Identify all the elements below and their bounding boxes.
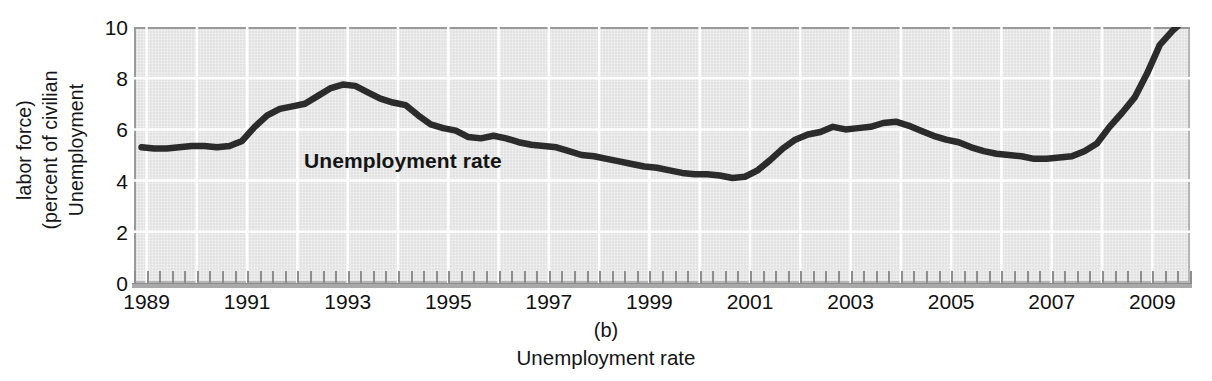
x-tick-1991: 1991	[224, 289, 271, 315]
x-minor-tick	[297, 271, 299, 284]
x-minor-tick	[901, 271, 903, 284]
x-minor-tick	[1089, 271, 1091, 284]
x-minor-tick	[813, 271, 815, 284]
x-minor-tick	[976, 271, 978, 284]
x-minor-tick	[926, 271, 928, 284]
y-axis-title: Unemployment (percent of civilian labor …	[0, 0, 100, 300]
x-minor-tick	[209, 271, 211, 284]
x-minor-tick	[272, 271, 274, 284]
plot-area	[134, 27, 1190, 283]
y-axis-title-line-1: Unemployment	[64, 84, 89, 216]
x-minor-tick	[763, 271, 765, 284]
x-tick-1995: 1995	[425, 289, 472, 315]
figure-caption: (b) Unemployment rate	[0, 316, 1212, 372]
x-minor-tick	[398, 271, 400, 284]
x-minor-tick	[637, 271, 639, 284]
x-minor-tick	[1077, 271, 1079, 284]
x-tick-2005: 2005	[928, 289, 975, 315]
horizontal-gridlines	[134, 78, 1190, 232]
x-tick-2001: 2001	[727, 289, 774, 315]
x-minor-tick	[599, 271, 601, 284]
x-minor-tick	[775, 271, 777, 284]
x-minor-tick	[851, 271, 853, 284]
x-tick-1993: 1993	[324, 289, 371, 315]
x-minor-tick	[1052, 271, 1054, 284]
x-minor-tick	[536, 271, 538, 284]
x-minor-tick	[172, 271, 174, 284]
x-minor-tick	[612, 271, 614, 284]
x-minor-tick	[486, 271, 488, 284]
x-minor-tick	[373, 271, 375, 284]
x-minor-tick	[712, 271, 714, 284]
x-minor-tick	[511, 271, 513, 284]
x-minor-tick	[863, 271, 865, 284]
x-minor-tick	[939, 271, 941, 284]
x-minor-tick	[285, 271, 287, 284]
x-minor-tick	[549, 271, 551, 284]
x-minor-tick	[1001, 271, 1003, 284]
x-minor-tick	[687, 271, 689, 284]
x-minor-tick	[385, 271, 387, 284]
x-tick-1997: 1997	[525, 289, 572, 315]
x-minor-tick	[700, 271, 702, 284]
x-minor-tick	[323, 271, 325, 284]
x-minor-tick	[1127, 271, 1129, 284]
x-minor-tick	[1177, 271, 1179, 284]
x-minor-tick	[1190, 271, 1192, 284]
series-annotation-label: Unemployment rate	[304, 149, 502, 173]
x-minor-tick	[1102, 271, 1104, 284]
x-minor-tick	[423, 271, 425, 284]
x-minor-tick	[624, 271, 626, 284]
x-minor-tick	[260, 271, 262, 284]
x-minor-tick	[587, 271, 589, 284]
x-minor-tick	[134, 271, 136, 284]
x-tick-2009: 2009	[1129, 289, 1176, 315]
x-minor-tick	[876, 271, 878, 284]
x-minor-tick	[348, 271, 350, 284]
x-minor-tick	[1140, 271, 1142, 284]
x-minor-tick	[184, 271, 186, 284]
x-minor-tick	[310, 271, 312, 284]
x-minor-tick	[888, 271, 890, 284]
x-axis-tick-labels: 1989199119931995199719992001200320052007…	[134, 289, 1190, 319]
y-tick-10: 10	[100, 17, 128, 38]
x-minor-tick	[561, 271, 563, 284]
x-minor-tick	[436, 271, 438, 284]
x-minor-tick	[1152, 271, 1154, 284]
x-minor-tick	[825, 271, 827, 284]
x-minor-tick	[1027, 271, 1029, 284]
x-minor-tick	[235, 271, 237, 284]
x-minor-tick	[800, 271, 802, 284]
x-minor-tick	[247, 271, 249, 284]
y-axis-title-line-3: labor force)	[12, 100, 37, 200]
x-minor-tick	[838, 271, 840, 284]
x-minor-tick	[662, 271, 664, 284]
y-tick-8: 8	[100, 68, 128, 89]
x-minor-tick	[725, 271, 727, 284]
x-minor-tick	[951, 271, 953, 284]
x-minor-tick	[411, 271, 413, 284]
x-minor-tick	[335, 271, 337, 284]
caption-text: Unemployment rate	[0, 344, 1212, 372]
x-minor-tick	[574, 271, 576, 284]
x-minor-tick	[913, 271, 915, 284]
x-minor-tick	[675, 271, 677, 284]
y-tick-4: 4	[100, 170, 128, 191]
x-minor-tick	[147, 271, 149, 284]
x-minor-tick	[360, 271, 362, 284]
x-tick-1989: 1989	[123, 289, 170, 315]
x-minor-tick	[737, 271, 739, 284]
caption-letter: (b)	[0, 316, 1212, 344]
x-minor-tick	[499, 271, 501, 284]
x-minor-tick	[1039, 271, 1041, 284]
x-tick-1999: 1999	[626, 289, 673, 315]
x-minor-tick	[1165, 271, 1167, 284]
x-minor-tick	[448, 271, 450, 284]
x-minor-tick	[197, 271, 199, 284]
x-minor-tick	[222, 271, 224, 284]
x-tick-2007: 2007	[1028, 289, 1075, 315]
x-minor-tick	[649, 271, 651, 284]
x-minor-tick	[159, 271, 161, 284]
x-minor-tick	[989, 271, 991, 284]
x-minor-tick	[750, 271, 752, 284]
